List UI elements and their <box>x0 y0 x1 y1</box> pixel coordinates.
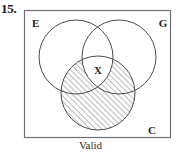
figure-caption: Valid <box>0 139 181 151</box>
venn-diagram: E G C X <box>0 0 181 152</box>
figure-page: 15. <box>0 0 181 152</box>
circle-label-e: E <box>32 17 39 29</box>
x-mark-label: X <box>94 64 102 76</box>
circle-label-c: C <box>148 124 156 136</box>
circle-label-g: G <box>159 17 168 29</box>
